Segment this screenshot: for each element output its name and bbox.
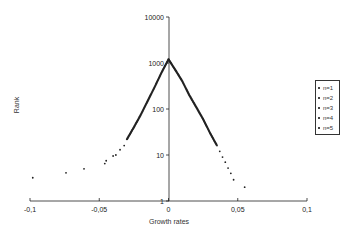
legend-item-n2: n=2 [318, 93, 339, 103]
svg-text:10000: 10000 [145, 14, 165, 21]
legend-marker-icon [318, 87, 320, 89]
svg-text:-0,05: -0,05 [91, 206, 107, 213]
y-ticks: 110100100010000 [145, 14, 169, 205]
legend-item-n5: n=5 [318, 123, 339, 133]
chart-plot-area: -0,1-0,0500,050,1 110100100010000 Growth… [0, 0, 353, 235]
svg-text:100: 100 [152, 106, 164, 113]
legend-item-n4: n=4 [318, 113, 339, 123]
data-points [32, 58, 246, 188]
legend-marker-icon [318, 107, 320, 109]
svg-text:1: 1 [160, 198, 164, 205]
legend-marker-icon [318, 127, 320, 129]
legend-item-n3: n=3 [318, 103, 339, 113]
x-ticks: -0,1-0,0500,050,1 [24, 198, 312, 213]
svg-text:0,1: 0,1 [302, 206, 312, 213]
legend-marker-icon [318, 117, 320, 119]
svg-text:0,05: 0,05 [231, 206, 245, 213]
svg-text:1000: 1000 [148, 60, 164, 67]
y-axis-title: Rank [13, 96, 20, 113]
legend-marker-icon [318, 97, 320, 99]
x-axis-title: Growth rates [149, 218, 190, 225]
svg-text:0: 0 [167, 206, 171, 213]
svg-text:-0,1: -0,1 [24, 206, 36, 213]
legend-item-n1: n=1 [318, 83, 339, 93]
svg-text:10: 10 [156, 152, 164, 159]
legend: n=1 n=2 n=3 n=4 n=5 [315, 80, 340, 135]
